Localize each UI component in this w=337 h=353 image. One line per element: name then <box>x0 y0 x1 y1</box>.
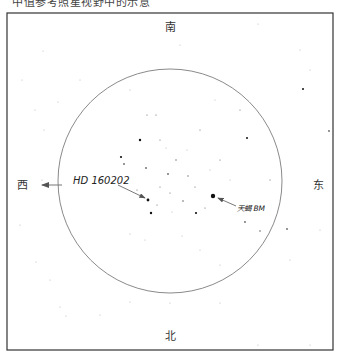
star <box>180 45 181 46</box>
star <box>139 139 141 141</box>
target-star-label: 天蝎 BM <box>237 204 266 213</box>
star <box>166 148 167 149</box>
star <box>155 114 156 115</box>
star-field-diagram: 南 北 西 东 HD 160202 天蝎 BM <box>0 0 337 353</box>
star <box>172 212 173 213</box>
star <box>182 200 184 202</box>
star <box>35 110 36 111</box>
star <box>170 303 171 304</box>
star <box>169 192 170 193</box>
star <box>42 180 43 181</box>
direction-east: 东 <box>313 179 324 192</box>
target-star-arrow-icon <box>218 198 236 206</box>
star <box>259 230 261 232</box>
star <box>300 50 301 51</box>
star-group <box>20 24 330 346</box>
star <box>220 303 221 304</box>
star <box>44 130 45 131</box>
star <box>258 24 259 25</box>
star <box>43 51 44 52</box>
star <box>159 139 160 140</box>
star <box>123 163 125 165</box>
star <box>239 109 240 110</box>
star <box>167 173 169 175</box>
star <box>36 262 37 263</box>
star <box>328 130 330 132</box>
star <box>147 199 150 202</box>
star <box>230 180 231 181</box>
reference-star-label: HD 160202 <box>73 175 130 186</box>
star <box>130 302 131 303</box>
star <box>320 230 321 231</box>
star <box>136 189 137 190</box>
frame-border <box>7 13 333 350</box>
star <box>244 221 246 223</box>
star <box>156 204 157 205</box>
star <box>60 307 61 308</box>
star <box>310 345 311 346</box>
star <box>211 194 215 198</box>
star <box>302 88 304 90</box>
star <box>310 70 311 71</box>
star <box>215 100 216 101</box>
star <box>100 315 101 316</box>
star <box>187 175 188 176</box>
star <box>58 102 59 103</box>
star <box>219 159 220 160</box>
star <box>175 159 176 160</box>
reference-star-arrow-icon <box>118 185 145 198</box>
star <box>50 280 51 281</box>
star <box>246 137 248 139</box>
star <box>159 186 160 187</box>
star <box>130 90 131 91</box>
star <box>220 265 221 266</box>
star <box>195 212 197 214</box>
star <box>80 80 81 81</box>
star <box>120 156 122 158</box>
star <box>204 207 205 208</box>
star <box>20 225 21 226</box>
star <box>286 228 288 230</box>
direction-west: 西 <box>17 179 28 192</box>
star <box>22 80 23 81</box>
star <box>269 179 270 180</box>
star <box>145 240 146 241</box>
star <box>194 186 195 187</box>
star <box>258 345 259 346</box>
star <box>199 129 200 130</box>
star <box>290 260 291 261</box>
star <box>130 234 131 235</box>
star <box>145 167 147 169</box>
star <box>146 114 147 115</box>
star <box>210 170 211 171</box>
star <box>187 150 188 151</box>
direction-north: 北 <box>165 330 176 343</box>
star <box>66 316 67 317</box>
star <box>150 212 152 214</box>
star <box>182 236 183 237</box>
star <box>200 250 201 251</box>
direction-south: 南 <box>165 21 176 34</box>
